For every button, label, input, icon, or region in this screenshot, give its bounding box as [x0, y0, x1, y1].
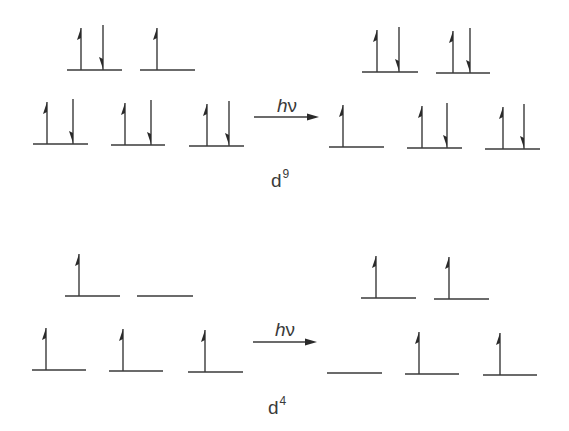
spin-down-head	[99, 57, 103, 69]
excitation-arrow-head	[305, 339, 317, 346]
d9-after-orbitals	[329, 27, 540, 149]
spin-up-arrow-icon	[372, 256, 376, 298]
spin-up-arrow-icon	[415, 332, 419, 374]
orbital-level	[65, 254, 120, 296]
frequency-nu: ν	[288, 95, 298, 116]
spin-up-arrow-icon	[77, 28, 81, 70]
spin-up-arrow-icon	[153, 28, 157, 70]
orbital-level	[33, 99, 88, 144]
orbital-level	[67, 25, 122, 70]
spin-up-arrow-icon	[75, 254, 79, 296]
spin-up-arrow-icon	[203, 104, 207, 146]
d9-base: d	[271, 170, 282, 191]
orbital-level	[436, 28, 490, 73]
d9-before-orbitals	[33, 25, 244, 146]
orbital-level	[32, 328, 86, 370]
orbital-level	[483, 333, 537, 375]
spin-up-head	[43, 102, 47, 114]
spin-up-arrow-icon	[119, 329, 123, 371]
spin-up-head	[75, 254, 79, 266]
d4-configuration-label: d4	[268, 398, 286, 417]
orbital-level	[362, 27, 418, 72]
d9-superscript: 9	[283, 167, 290, 181]
panel-d9	[33, 25, 540, 149]
orbital-level	[407, 103, 462, 148]
orbital-level	[405, 332, 459, 374]
orbital-level	[189, 101, 244, 146]
planck-h: h	[275, 319, 286, 340]
d4-excitation-label: hν	[275, 320, 295, 339]
spin-up-arrow-icon	[499, 107, 503, 149]
orbital-diagram	[0, 0, 569, 431]
orbital-level	[188, 330, 243, 372]
spin-down-arrow-icon	[147, 100, 151, 145]
planck-h: h	[277, 95, 288, 116]
spin-down-head	[520, 136, 524, 148]
d4-after-orbitals	[327, 256, 537, 375]
spin-down-arrow-icon	[395, 27, 399, 72]
spin-down-arrow-icon	[99, 25, 103, 70]
spin-down-arrow-icon	[225, 101, 229, 146]
orbital-level	[140, 28, 195, 70]
spin-up-arrow-icon	[449, 31, 453, 73]
spin-up-arrow-icon	[418, 106, 422, 148]
d4-superscript: 4	[280, 394, 287, 408]
spin-down-arrow-icon	[69, 99, 73, 144]
spin-down-arrow-icon	[443, 103, 447, 148]
orbital-level	[485, 104, 540, 149]
orbital-level	[111, 100, 165, 145]
spin-up-arrow-icon	[445, 257, 449, 299]
excitation-arrow-head	[307, 114, 319, 121]
spin-up-arrow-icon	[496, 333, 500, 375]
spin-up-arrow-icon	[373, 30, 377, 72]
spin-up-head	[121, 103, 125, 115]
orbital-level	[361, 256, 416, 298]
spin-down-arrow-icon	[520, 104, 524, 149]
frequency-nu: ν	[286, 319, 296, 340]
panel-d4	[32, 254, 537, 375]
d9-excitation-label: hν	[277, 96, 297, 115]
spin-up-arrow-icon	[201, 330, 205, 372]
spin-down-arrow-icon	[466, 28, 470, 73]
spin-up-head	[77, 28, 81, 40]
spin-up-arrow-icon	[339, 105, 343, 147]
spin-down-head	[69, 131, 73, 143]
spin-up-arrow-icon	[43, 102, 47, 144]
orbital-level	[329, 105, 384, 147]
d4-base: d	[268, 397, 279, 418]
spin-up-arrow-icon	[121, 103, 125, 145]
orbital-level	[109, 329, 163, 371]
d4-before-orbitals	[32, 254, 243, 372]
orbital-level	[434, 257, 489, 299]
spin-up-arrow-icon	[42, 328, 46, 370]
d9-configuration-label: d9	[271, 171, 289, 190]
